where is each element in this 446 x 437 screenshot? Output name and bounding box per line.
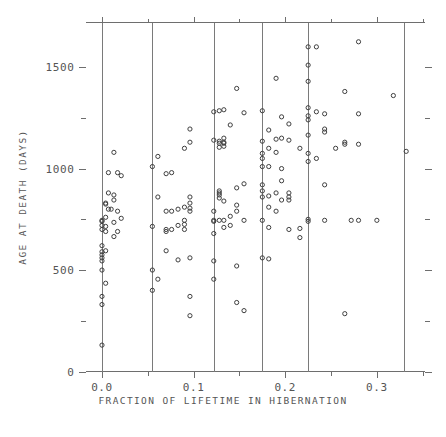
- data-point: [314, 156, 318, 160]
- data-point: [274, 191, 278, 195]
- y-tick-label-3: 1500: [46, 61, 75, 74]
- data-point: [356, 40, 360, 44]
- data-point: [188, 314, 192, 318]
- data-point: [170, 171, 174, 175]
- data-point: [349, 218, 353, 222]
- data-point: [115, 171, 119, 175]
- data-point: [156, 195, 160, 199]
- data-point: [217, 109, 221, 113]
- x-tick-label-3: 0.3: [366, 381, 388, 394]
- data-point: [156, 277, 160, 281]
- data-point: [115, 209, 119, 213]
- data-point: [112, 150, 116, 154]
- data-point: [104, 281, 108, 285]
- data-point: [228, 214, 232, 218]
- data-point: [222, 218, 226, 222]
- data-point: [323, 218, 327, 222]
- data-point: [334, 146, 338, 150]
- data-point: [112, 193, 116, 197]
- data-point: [222, 225, 226, 229]
- data-point: [314, 110, 318, 114]
- data-point: [115, 229, 119, 233]
- data-point: [267, 205, 271, 209]
- data-point: [104, 215, 108, 219]
- data-point: [212, 231, 216, 235]
- data-point: [314, 45, 318, 49]
- data-point: [375, 218, 379, 222]
- x-axis-title: FRACTION OF LIFETIME IN HIBERNATION: [98, 395, 347, 406]
- data-point: [228, 223, 232, 227]
- data-point: [100, 294, 104, 298]
- data-point: [267, 146, 271, 150]
- data-point: [188, 294, 192, 298]
- data-point: [112, 198, 116, 202]
- scatter-plot-figure: 0.00.10.20.3 050010001500 FRACTION OF LI…: [0, 0, 446, 437]
- data-point: [217, 218, 221, 222]
- plot-frame: [86, 23, 425, 372]
- plot-canvas: 0.00.10.20.3 050010001500 FRACTION OF LI…: [0, 0, 446, 437]
- data-point: [212, 110, 216, 114]
- data-point: [356, 142, 360, 146]
- x-tick-label-0: 0.0: [91, 381, 113, 394]
- data-point: [279, 179, 283, 183]
- data-point: [274, 150, 278, 154]
- data-point: [235, 203, 239, 207]
- data-point: [188, 195, 192, 199]
- data-point: [188, 140, 192, 144]
- data-point: [298, 226, 302, 230]
- data-point: [323, 127, 327, 131]
- data-point: [156, 154, 160, 158]
- data-point: [287, 227, 291, 231]
- data-point: [106, 171, 110, 175]
- data-point: [279, 136, 283, 140]
- data-point: [212, 277, 216, 281]
- data-point: [391, 93, 395, 97]
- y-tick-label-2: 1000: [46, 163, 75, 176]
- data-point: [176, 223, 180, 227]
- data-point: [170, 227, 174, 231]
- data-point: [182, 146, 186, 150]
- data-point: [109, 207, 113, 211]
- data-point: [279, 198, 283, 202]
- y-tick-label-0: 0: [67, 366, 74, 379]
- data-point: [242, 218, 246, 222]
- data-point: [188, 206, 192, 210]
- data-point: [279, 166, 283, 170]
- data-point: [100, 268, 104, 272]
- data-point: [274, 76, 278, 80]
- data-point: [182, 227, 186, 231]
- data-point: [188, 127, 192, 131]
- data-point: [188, 201, 192, 205]
- data-point: [222, 199, 226, 203]
- data-point: [100, 244, 104, 248]
- data-point: [343, 89, 347, 93]
- data-point: [274, 137, 278, 141]
- data-point: [267, 225, 271, 229]
- data-point: [274, 209, 278, 213]
- data-point: [235, 300, 239, 304]
- y-axis-tick-labels: 050010001500: [46, 61, 75, 378]
- x-tick-label-2: 0.2: [274, 381, 296, 394]
- data-point: [287, 122, 291, 126]
- x-axis-tick-labels: 0.00.10.20.3: [91, 381, 388, 394]
- data-point: [343, 312, 347, 316]
- data-point: [106, 191, 110, 195]
- data-point: [279, 115, 283, 119]
- data-point: [164, 249, 168, 253]
- data-point: [356, 218, 360, 222]
- data-point: [212, 209, 216, 213]
- data-point: [235, 186, 239, 190]
- data-point: [176, 207, 180, 211]
- data-point: [212, 138, 216, 142]
- data-point: [242, 182, 246, 186]
- y-axis-title: AGE AT DEATH (DAYS): [17, 129, 28, 264]
- data-point: [164, 172, 168, 176]
- data-point: [100, 302, 104, 306]
- data-point: [298, 146, 302, 150]
- data-point: [298, 235, 302, 239]
- data-point: [242, 309, 246, 313]
- data-point: [212, 259, 216, 263]
- data-point: [119, 216, 123, 220]
- reference-lines: [103, 23, 405, 372]
- data-point: [170, 209, 174, 213]
